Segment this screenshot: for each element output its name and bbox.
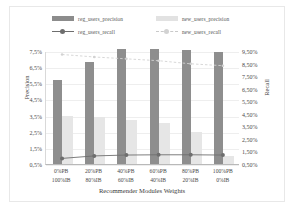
gridline <box>46 165 239 166</box>
y-axis-left-tick-label: 3,5% <box>30 114 43 120</box>
line-new-users-recall <box>62 54 223 65</box>
legend-label: reg_users_precision <box>78 16 123 22</box>
y-axis-left-title: Precision <box>23 58 30 118</box>
x-axis-tick-labels: 0%PB100%IB20%PB80%IB40%PB60%IB60%PB40%IB… <box>45 167 239 186</box>
line-series-group <box>46 52 239 164</box>
x-axis-tick-label: 0%PB100%IB <box>45 167 77 186</box>
y-axis-right-tick-label: 5,50% <box>242 99 258 105</box>
legend-item-reg-users-recall: reg_users_recall <box>52 26 156 37</box>
legend-item-reg-users-precision: reg_users_precision <box>52 13 156 24</box>
y-axis-left-tick-label: 6,5% <box>30 65 43 71</box>
legend-label: new_users_precision <box>182 16 229 22</box>
data-point-reg-users-recall <box>60 156 64 160</box>
line-solid-marker-icon <box>52 28 74 35</box>
y-axis-left-tick-label: 0,5% <box>30 162 43 168</box>
y-axis-left-tick-label: 2,5% <box>30 130 43 136</box>
y-axis-right-tick-label: 3,50% <box>242 124 258 130</box>
x-axis-tick-label: 100%PB0%IB <box>207 167 239 186</box>
y-axis-right-tick-label: 2,50% <box>242 137 258 143</box>
x-axis-tick-label: 40%PB60%IB <box>110 167 142 186</box>
y-axis-right-title: Recall <box>263 58 270 118</box>
data-point-new-users-recall <box>61 53 64 56</box>
legend-label: reg_users_recall <box>78 29 115 35</box>
y-axis-left-tick-label: 4,5% <box>30 97 43 103</box>
data-point-reg-users-recall <box>92 154 96 158</box>
chart-figure: reg_users_precision new_users_precision … <box>0 0 294 215</box>
legend-label: new_users_recall <box>182 29 221 35</box>
y-axis-left-tick-label: 7,5% <box>30 49 43 55</box>
y-axis-right-tick-label: 0,50% <box>242 162 258 168</box>
data-point-new-users-recall <box>93 56 96 59</box>
plot-area <box>45 52 239 165</box>
x-axis-tick-label: 60%PB40%IB <box>142 167 174 186</box>
data-point-reg-users-recall <box>189 153 193 157</box>
y-axis-right-tick-label: 6,50% <box>242 87 258 93</box>
y-axis-right-tick-label: 4,50% <box>242 112 258 118</box>
y-axis-left-tick-label: 1,5% <box>30 146 43 152</box>
data-point-new-users-recall <box>157 59 160 62</box>
line-dashed-marker-icon <box>156 28 178 35</box>
x-axis-tick-label: 80%PB20%IB <box>174 167 206 186</box>
data-point-reg-users-recall <box>157 153 161 157</box>
bar-swatch-light-icon <box>156 16 178 21</box>
data-point-reg-users-recall <box>124 153 128 157</box>
legend-item-new-users-precision: new_users_precision <box>156 13 252 24</box>
y-axis-right-tick-label: 1,50% <box>242 149 258 155</box>
data-point-new-users-recall <box>125 58 128 61</box>
x-axis-tick-label: 20%PB80%IB <box>77 167 109 186</box>
y-axis-right-tick-label: 8,50% <box>242 62 258 68</box>
data-point-new-users-recall <box>189 63 192 66</box>
legend-item-new-users-recall: new_users_recall <box>156 26 252 37</box>
y-axis-right-tick-label: 9,50% <box>242 49 258 55</box>
line-reg-users-recall <box>62 155 223 159</box>
x-axis-title: Recommender Modules Weights <box>45 187 239 194</box>
y-axis-right-tick-label: 7,50% <box>242 74 258 80</box>
chart-legend: reg_users_precision new_users_precision … <box>52 13 252 39</box>
data-point-reg-users-recall <box>221 153 225 157</box>
y-axis-left-tick-label: 5,5% <box>30 81 43 87</box>
bar-swatch-dark-icon <box>52 16 74 21</box>
data-point-new-users-recall <box>222 64 225 67</box>
